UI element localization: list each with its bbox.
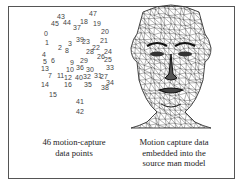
motion-capture-point-label: 37 xyxy=(73,24,81,31)
motion-capture-point-label: 20 xyxy=(101,28,109,35)
motion-capture-point-label: 29 xyxy=(80,57,88,64)
motion-capture-point-label: 23 xyxy=(82,38,90,45)
motion-capture-point-label: 36 xyxy=(76,64,84,71)
motion-capture-point-label: 38 xyxy=(101,84,109,91)
motion-capture-point-label: 12 xyxy=(64,74,72,81)
motion-capture-point-label: 2 xyxy=(58,44,62,51)
motion-capture-point-label: 7 xyxy=(48,72,52,79)
motion-capture-point-label: 32 xyxy=(83,73,91,80)
motion-capture-point-label: 6 xyxy=(51,57,55,64)
right-caption-line1: Motion capture data xyxy=(124,137,224,148)
motion-capture-point-label: 3 xyxy=(68,40,72,47)
motion-capture-point-label: 10 xyxy=(66,66,74,73)
motion-capture-point-label: 33 xyxy=(106,64,114,71)
motion-capture-point-label: 0 xyxy=(44,30,48,37)
motion-capture-point-label: 5 xyxy=(43,58,47,65)
motion-capture-point-label: 24 xyxy=(104,48,112,55)
right-caption: Motion capture data embedded into the so… xyxy=(124,137,224,169)
motion-capture-point-label: 14 xyxy=(41,81,49,88)
left-caption-line1: 46 motion-capture xyxy=(30,137,118,148)
motion-capture-point-label: 13 xyxy=(41,65,49,72)
right-caption-line2: embedded into the xyxy=(124,148,224,159)
motion-capture-point-label: 42 xyxy=(76,108,84,115)
motion-capture-point-label: 21 xyxy=(100,37,108,44)
motion-capture-point-label: 35 xyxy=(84,81,92,88)
motion-capture-point-label: 40 xyxy=(75,74,83,81)
motion-capture-point-label: 19 xyxy=(93,20,101,27)
motion-capture-point-label: 9 xyxy=(70,59,74,66)
left-caption: 46 motion-capture data points xyxy=(30,137,118,158)
right-caption-line3: source man model xyxy=(124,158,224,169)
motion-capture-point-label: 1 xyxy=(45,39,49,46)
wireframe-face-mesh-image xyxy=(125,4,217,130)
motion-capture-point-label: 44 xyxy=(63,19,71,26)
motion-capture-point-label: 41 xyxy=(76,98,84,105)
motion-capture-point-label: 45 xyxy=(51,20,59,27)
motion-capture-point-label: 4 xyxy=(42,51,46,58)
motion-capture-point-label: 25 xyxy=(104,56,112,63)
left-caption-line2: data points xyxy=(30,148,118,159)
motion-capture-point-label: 8 xyxy=(65,47,69,54)
motion-capture-point-label: 30 xyxy=(86,66,94,73)
motion-capture-point-label: 15 xyxy=(49,91,57,98)
motion-capture-point-label: 16 xyxy=(64,81,72,88)
motion-capture-point-label: 47 xyxy=(89,10,97,17)
motion-capture-point-label: 18 xyxy=(80,18,88,25)
motion-capture-point-label: 28 xyxy=(86,48,94,55)
